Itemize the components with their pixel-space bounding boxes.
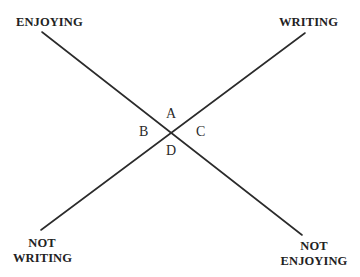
- quadrant-a-label: A: [166, 107, 176, 121]
- label-not-enjoying: NOT ENJOYING: [280, 239, 348, 269]
- label-not-enjoying-line1: NOT: [280, 239, 348, 254]
- label-not-writing: NOT WRITING: [13, 236, 71, 266]
- label-not-enjoying-line2: ENJOYING: [280, 254, 348, 269]
- label-writing: WRITING: [279, 15, 338, 30]
- quadrant-b-label: B: [139, 125, 148, 139]
- quadrant-d-label: D: [166, 144, 176, 158]
- label-writing-text: WRITING: [279, 15, 338, 29]
- quadrant-c-label: C: [196, 125, 205, 139]
- label-enjoying-text: ENJOYING: [16, 15, 83, 29]
- diagram: ENJOYING WRITING NOT WRITING NOT ENJOYIN…: [0, 0, 360, 277]
- label-not-writing-line1: NOT: [13, 236, 71, 251]
- enjoying-axis-line: [42, 32, 302, 235]
- label-enjoying: ENJOYING: [16, 15, 83, 30]
- label-not-writing-line2: WRITING: [13, 251, 71, 266]
